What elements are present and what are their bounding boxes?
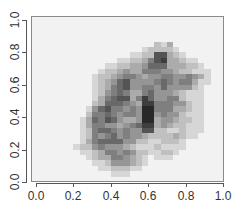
- y-tick: [22, 52, 26, 53]
- heatmap-cell: [73, 144, 80, 150]
- heatmap-cell: [192, 133, 198, 139]
- y-tick: [22, 20, 26, 21]
- x-tick: [73, 183, 74, 187]
- heatmap-cell: [204, 79, 211, 85]
- heatmap-cell: [98, 166, 105, 171]
- x-tick: [186, 183, 187, 187]
- y-tick-label: 0.4: [8, 102, 22, 132]
- y-tick-label: 1.0: [8, 5, 22, 35]
- x-tick-label: 0.8: [171, 189, 201, 203]
- y-tick-label: 0.6: [8, 70, 22, 100]
- y-tick: [22, 150, 26, 151]
- y-tick-label: 0.8: [8, 37, 22, 67]
- y-tick: [22, 85, 26, 86]
- x-tick-label: 1.0: [208, 189, 238, 203]
- y-tick: [22, 117, 26, 118]
- x-tick: [223, 183, 224, 187]
- x-tick: [148, 183, 149, 187]
- heatmap-cell: [136, 166, 142, 171]
- y-axis-line: [26, 20, 27, 183]
- x-tick: [111, 183, 112, 187]
- heatmap-cell: [123, 171, 130, 177]
- heatmap-cell: [142, 160, 148, 166]
- heatmap-cell: [154, 155, 161, 160]
- y-tick-label: 0.2: [8, 135, 22, 165]
- x-tick-label: 0.6: [133, 189, 163, 203]
- heatmap-cell: [198, 128, 204, 133]
- x-tick-label: 0.0: [21, 189, 51, 203]
- y-tick-label: 0.0: [8, 167, 22, 197]
- heatmap-cells: [0, 0, 241, 212]
- x-tick-label: 0.2: [58, 189, 88, 203]
- x-axis-line: [36, 183, 224, 184]
- heatmap-cell: [173, 150, 179, 155]
- x-tick-label: 0.4: [96, 189, 126, 203]
- y-tick: [22, 182, 26, 183]
- heatmap-cell: [179, 144, 186, 150]
- heatmap-cell: [167, 155, 173, 160]
- x-tick: [36, 183, 37, 187]
